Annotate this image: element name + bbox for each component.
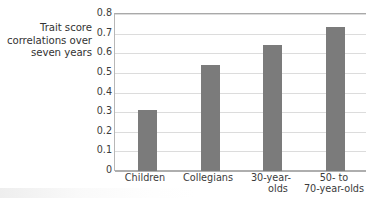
y-axis-label: Trait score correlations over seven year…: [2, 22, 92, 60]
bar: [263, 45, 282, 171]
y-tick-label: 0.6: [92, 47, 112, 57]
y-axis-label-line-1: Trait score: [2, 22, 92, 35]
bars-layer: [115, 14, 366, 171]
y-axis-label-line-2: correlations over: [2, 35, 92, 48]
bar-chart-figure: Trait score correlations over seven year…: [0, 0, 366, 204]
y-tick-label: 0.4: [92, 87, 112, 97]
x-tick-label: 50- to70-year-olds: [288, 172, 366, 195]
y-tick-label: 0.3: [92, 106, 112, 116]
y-tick-label: 0.7: [92, 28, 112, 38]
plot-area: [114, 13, 366, 171]
scan-artifact-band: [0, 188, 196, 198]
bar: [201, 65, 220, 171]
y-tick-label: 0.1: [92, 145, 112, 155]
x-tick-label-line: 50- to: [288, 172, 366, 183]
y-tick-label: 0.8: [92, 8, 112, 18]
bar: [326, 27, 345, 171]
y-tick-label: 0.5: [92, 67, 112, 77]
x-tick-label-line: 70-year-olds: [288, 183, 366, 194]
bar: [138, 110, 157, 171]
y-axis-label-line-3: seven years: [2, 47, 92, 60]
y-tick-label: 0.2: [92, 126, 112, 136]
